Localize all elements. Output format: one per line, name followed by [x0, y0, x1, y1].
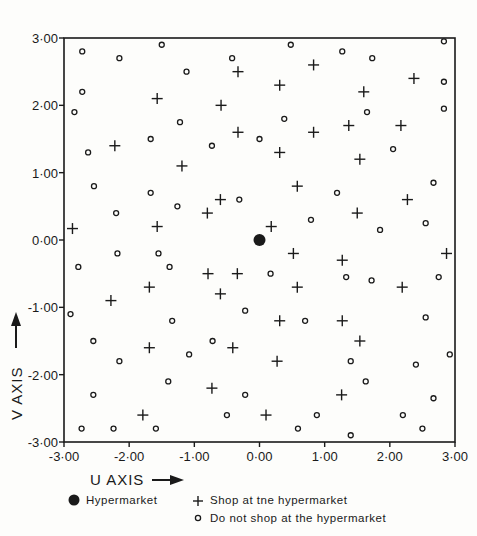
shop-point — [152, 221, 163, 232]
shop-point — [137, 410, 148, 421]
plus-marker-icon — [193, 496, 203, 506]
no-shop-point — [431, 180, 436, 185]
no-shop-point — [257, 137, 262, 142]
no-shop-point — [391, 147, 396, 152]
no-shop-point — [243, 308, 248, 313]
shop-point — [266, 221, 277, 232]
no-shop-point — [166, 379, 171, 384]
legend-label-hypermarket: Hypermarket — [86, 494, 158, 506]
no-shop-point — [91, 339, 96, 344]
no-shop-point — [72, 110, 77, 115]
legend-item-noshop: Do not shop at the hypermarket — [195, 512, 386, 524]
no-shop-point — [400, 413, 405, 418]
shop-point — [144, 342, 155, 353]
no-shop-point — [175, 204, 180, 209]
no-shop-point — [282, 116, 287, 121]
no-shop-point — [370, 56, 375, 61]
no-shop-point — [209, 143, 214, 148]
no-shop-point — [148, 137, 153, 142]
shop-point — [408, 73, 419, 84]
no-shop-point — [340, 49, 345, 54]
no-shop-point — [80, 89, 85, 94]
scatter-chart: -3·00-2·00-1·000·001·002·003·00-3·00-2·0… — [0, 0, 477, 536]
y-tick-label: -3·00 — [28, 435, 58, 450]
x-axis-arrow-icon — [152, 475, 184, 485]
no-shop-point — [117, 56, 122, 61]
legend-label-shop: Shop at tne hypermarket — [210, 494, 348, 506]
no-shop-point — [365, 110, 370, 115]
no-shop-point — [187, 352, 192, 357]
open-circle-marker-icon — [195, 515, 200, 520]
shop-point — [176, 160, 187, 171]
no-shop-point — [441, 39, 446, 44]
shop-point — [109, 140, 120, 151]
shop-point — [274, 80, 285, 91]
shop-point — [397, 282, 408, 293]
legend-item-shop: Shop at tne hypermarket — [193, 494, 348, 506]
shop-point — [402, 194, 413, 205]
shop-point — [67, 223, 78, 234]
shop-point — [292, 181, 303, 192]
y-tick-label: 3·00 — [32, 31, 58, 46]
no-shop-point — [243, 392, 248, 397]
no-shop-point — [170, 318, 175, 323]
no-shop-point — [115, 251, 120, 256]
no-shop-point — [303, 318, 308, 323]
shop-point — [152, 93, 163, 104]
shop-point — [354, 154, 365, 165]
no-shop-point — [441, 106, 446, 111]
no-shop-point — [153, 426, 158, 431]
shop-point — [272, 356, 283, 367]
data-points — [67, 39, 452, 438]
y-tick-label: 0·00 — [32, 233, 58, 248]
shop-point — [215, 288, 226, 299]
no-shop-point — [295, 426, 300, 431]
no-shop-point — [348, 359, 353, 364]
no-shop-point — [423, 315, 428, 320]
no-shop-point — [117, 359, 122, 364]
y-axis-arrow-icon — [11, 312, 21, 348]
no-shop-point — [447, 352, 452, 357]
no-shop-point — [363, 379, 368, 384]
x-tick-label: 1·00 — [312, 449, 338, 464]
shop-point — [206, 383, 217, 394]
shop-point — [274, 147, 285, 158]
shop-point — [395, 120, 406, 131]
hypermarket-marker-icon — [69, 495, 80, 506]
shop-point — [441, 248, 452, 259]
shop-point — [343, 120, 354, 131]
no-shop-point — [348, 433, 353, 438]
shop-point — [105, 295, 116, 306]
x-tick-label: -3·00 — [49, 449, 79, 464]
shop-point — [337, 255, 348, 266]
no-shop-point — [441, 79, 446, 84]
shop-point — [216, 100, 227, 111]
no-shop-point — [268, 271, 273, 276]
shop-point — [232, 66, 243, 77]
shop-point — [274, 315, 285, 326]
no-shop-point — [184, 69, 189, 74]
legend-item-hypermarket: Hypermarket — [69, 494, 158, 506]
no-shop-point — [423, 221, 428, 226]
shop-point — [352, 208, 363, 219]
axis-ticks: -3·00-2·00-1·000·001·002·003·00-3·00-2·0… — [28, 31, 468, 464]
no-shop-point — [314, 413, 319, 418]
shop-point — [232, 127, 243, 138]
shop-point — [215, 194, 226, 205]
no-shop-point — [224, 413, 229, 418]
no-shop-point — [344, 275, 349, 280]
no-shop-point — [159, 42, 164, 47]
shop-point — [337, 315, 348, 326]
shop-point — [354, 336, 365, 347]
no-shop-point — [86, 150, 91, 155]
no-shop-point — [369, 278, 374, 283]
no-shop-point — [177, 120, 182, 125]
no-shop-point — [80, 49, 85, 54]
no-shop-point — [378, 227, 383, 232]
no-shop-point — [431, 396, 436, 401]
shop-point — [288, 248, 299, 259]
no-shop-point — [167, 264, 172, 269]
no-shop-point — [420, 426, 425, 431]
no-shop-point — [156, 251, 161, 256]
hypermarket-point — [254, 234, 266, 246]
